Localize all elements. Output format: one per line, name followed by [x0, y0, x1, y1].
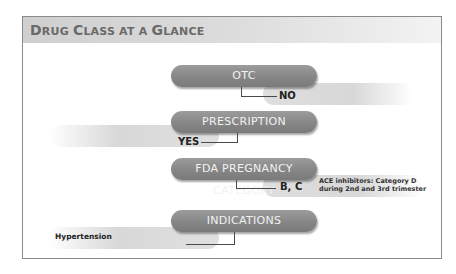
connector-indications-h — [186, 244, 235, 245]
panel-title: DRUG CLASS AT A GLANCE — [30, 22, 204, 38]
answer-otc: NO — [279, 90, 296, 101]
title-cap-4: G — [151, 22, 163, 38]
title-word-2: LASS — [83, 25, 115, 38]
pill-fda-pregnancy-category: FDA PREGNANCY CATEGORY — [171, 158, 317, 180]
title-cap-2: C — [73, 22, 83, 38]
drug-class-panel: DRUG CLASS AT A GLANCE OTC NO PRESCRIPTI… — [22, 16, 442, 259]
note-line-2: during 2nd and 3rd trimester — [319, 185, 426, 193]
answer-indications: Hypertension — [55, 232, 112, 241]
title-bar: DRUG CLASS AT A GLANCE — [23, 17, 441, 43]
pill-otc: OTC — [171, 65, 317, 87]
answer-pregnancy: B, C — [280, 181, 302, 192]
note-line-1: ACE inhibitors: Category D — [319, 177, 426, 185]
title-word-1: RUG — [42, 25, 69, 38]
title-cap-1: D — [30, 22, 42, 38]
title-word-3: AT A — [119, 25, 147, 38]
pregnancy-note: ACE inhibitors: Category D during 2nd an… — [319, 177, 426, 193]
pill-indications: INDICATIONS — [171, 210, 317, 232]
pill-prescription: PRESCRIPTION — [171, 111, 317, 133]
connector-pregnancy-h — [236, 188, 276, 189]
connector-prescription-h — [201, 142, 238, 143]
title-word-4: LANCE — [163, 25, 204, 38]
connector-otc-h — [241, 96, 277, 97]
answer-prescription: YES — [178, 136, 199, 147]
